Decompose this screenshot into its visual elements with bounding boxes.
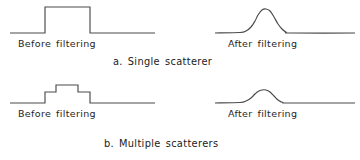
label-before-filtering-bottom: Before filtering: [18, 108, 96, 119]
caption-single-scatterer: a. Single scatterer: [113, 56, 212, 67]
label-before-filtering-top: Before filtering: [18, 38, 96, 49]
trace-a-after: [215, 9, 355, 33]
trace-a-before: [10, 7, 155, 33]
filtering-figure: Before filtering After filtering a. Sing…: [0, 0, 360, 160]
label-after-filtering-bottom: After filtering: [228, 108, 297, 119]
label-after-filtering-top: After filtering: [228, 38, 297, 49]
waveform-plot-layer: [0, 0, 360, 160]
caption-multiple-scatterers: b. Multiple scatterers: [104, 138, 218, 149]
trace-b-after: [215, 90, 355, 103]
trace-b-before: [10, 85, 155, 103]
